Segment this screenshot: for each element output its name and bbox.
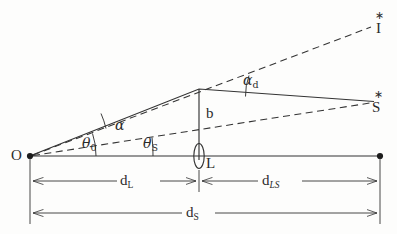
- label-angle-theta-0: θ0: [82, 136, 96, 150]
- dLS-base: d: [262, 172, 270, 188]
- dimension-witness-lines: [30, 158, 380, 224]
- dS-base: d: [186, 204, 194, 220]
- label-distance-dLS: dLS: [262, 173, 280, 188]
- dLS-subscript: LS: [270, 180, 280, 190]
- dL-subscript: L: [128, 180, 134, 190]
- alpha-d-subscript: d: [252, 79, 258, 90]
- label-angle-theta-s: θS: [143, 136, 158, 150]
- label-source: S: [372, 100, 380, 115]
- theta-0-subscript: 0: [90, 142, 96, 153]
- label-distance-dL: dL: [120, 173, 133, 188]
- dL-base: d: [120, 172, 128, 188]
- label-image: I: [376, 21, 381, 36]
- label-angle-alpha: α: [115, 118, 124, 132]
- label-observer: O: [11, 148, 22, 163]
- label-distance-dS: dS: [186, 205, 199, 220]
- lensing-diagram: O L ∗ S ∗ I α αd θ0 θS b dL dLS dS: [0, 0, 397, 234]
- dS-subscript: S: [194, 212, 199, 222]
- theta-s-subscript: S: [151, 142, 158, 153]
- label-lens: L: [206, 156, 215, 171]
- diagram-canvas: [0, 0, 397, 234]
- label-angle-alpha-d: αd: [243, 73, 259, 87]
- label-impact-parameter: b: [206, 106, 214, 121]
